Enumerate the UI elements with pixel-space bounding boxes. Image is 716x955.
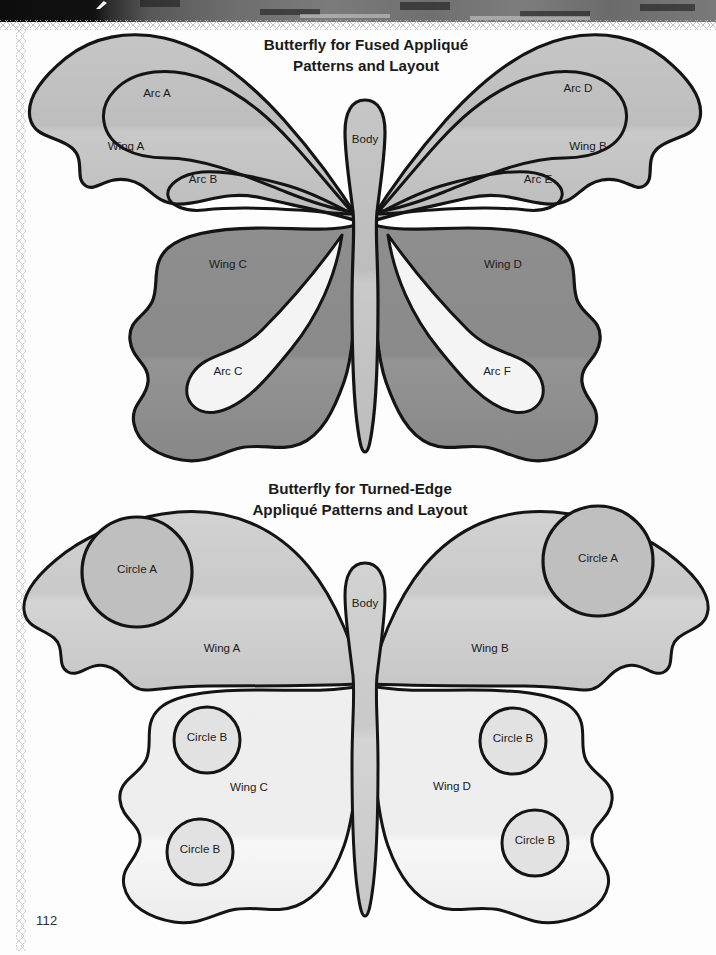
label-wing-d-2: Wing D [433,779,471,792]
label-arc-e: Arc E [524,172,553,185]
wing-a-shape-2 [24,511,362,690]
label-circle-b-upper-left: Circle B [187,730,228,743]
wing-c-shape-2 [120,686,360,923]
body-shape [345,100,385,452]
label-arc-d: Arc D [564,81,593,94]
label-arc-b: Arc B [189,172,218,185]
figure2-title-line2: Appliqué Patterns and Layout [252,501,467,518]
figure-turned-edge-applique-butterfly: Butterfly for Turned-Edge Appliqué Patte… [24,480,708,923]
label-circle-b-upper-right: Circle B [493,731,534,744]
label-circle-b-lower-left: Circle B [180,842,221,855]
figure1-title-line1: Butterfly for Fused Appliqué [264,36,468,53]
label-arc-a: Arc A [143,86,171,99]
label-body-1: Body [352,132,379,145]
label-wing-a: Wing A [108,139,145,152]
butterfly-pattern-illustrations: Butterfly for Fused Appliqué Patterns an… [0,0,716,955]
figure2-title-line1: Butterfly for Turned-Edge [268,480,452,497]
label-wing-b-2: Wing B [471,641,509,654]
label-body-2: Body [352,596,379,609]
label-wing-b: Wing B [569,139,607,152]
page-number: 112 [36,913,57,928]
label-wing-c-2: Wing C [230,780,268,793]
label-arc-f: Arc F [483,364,511,377]
label-arc-c: Arc C [214,364,243,377]
label-circle-b-lower-right: Circle B [515,833,556,846]
label-circle-a-right: Circle A [578,551,618,564]
wing-b-shape-2 [370,511,708,690]
label-wing-a-2: Wing A [204,641,241,654]
scanned-book-page: Butterfly for Fused Appliqué Patterns an… [0,0,716,955]
label-wing-c: Wing C [209,257,247,270]
body-shape-2 [345,563,385,916]
label-wing-d: Wing D [484,257,522,270]
figure1-title-line2: Patterns and Layout [293,57,439,74]
label-circle-a-left: Circle A [117,562,157,575]
figure-fused-applique-butterfly: Butterfly for Fused Appliqué Patterns an… [29,35,700,461]
